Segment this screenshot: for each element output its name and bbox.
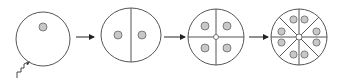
egg-cell [16,12,70,66]
nucleus [223,44,231,52]
center-cavity [214,35,219,40]
nucleus [201,44,209,52]
nucleus [278,39,285,46]
nucleus [290,16,297,23]
nucleus [114,31,122,39]
center-cavity [296,34,302,40]
nucleus [313,28,320,35]
nucleus [223,22,231,30]
stage-zygote [16,12,70,78]
nucleus [313,39,320,46]
stage-4-cell [188,9,244,65]
nucleus [301,51,308,58]
cleavage-diagram [0,0,338,79]
stage-8-cell [271,9,327,65]
nucleus [290,51,297,58]
nucleus [138,31,146,39]
nucleus [201,22,209,30]
sperm-tail [17,62,28,78]
cleavage-diagram-svg [0,0,338,79]
nucleus [278,28,285,35]
stage-2-cell [101,8,161,62]
nucleus [39,23,47,31]
nucleus [301,16,308,23]
